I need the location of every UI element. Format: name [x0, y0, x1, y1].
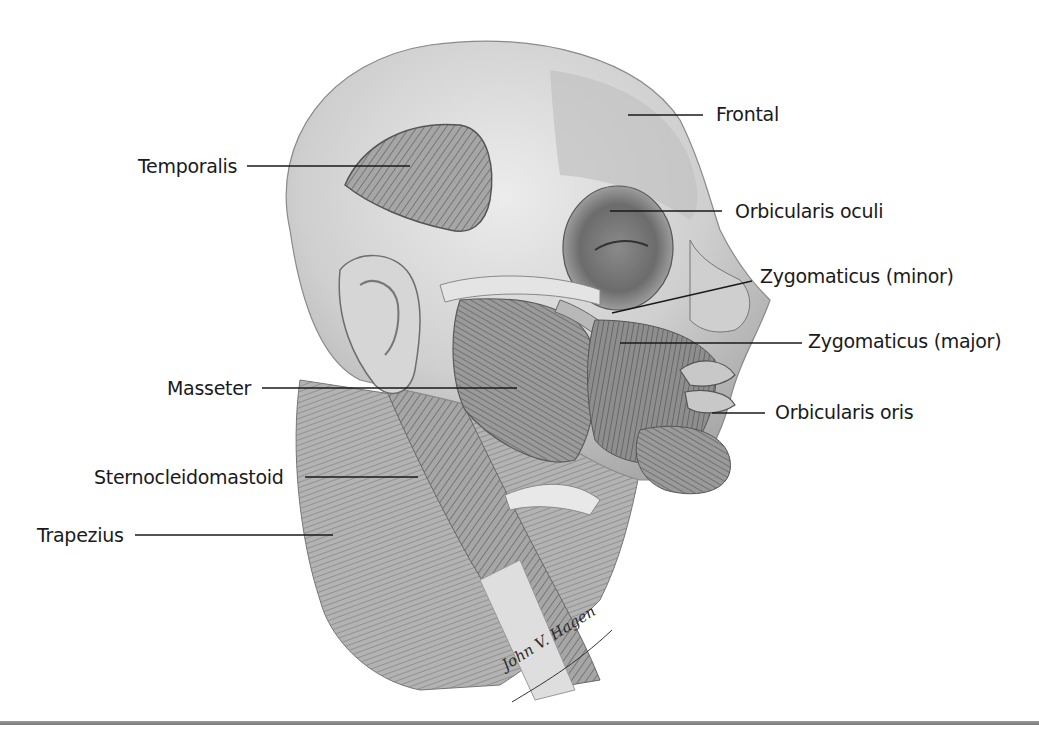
anatomy-figure: Frontal Temporalis Orbicularis oculi Zyg… [0, 0, 1039, 729]
bottom-rule [0, 721, 1039, 725]
label-sternocleidomastoid: Sternocleidomastoid [94, 468, 284, 487]
label-zygomaticus-minor: Zygomaticus (minor) [760, 267, 954, 286]
label-orbicularis-oculi: Orbicularis oculi [735, 202, 883, 221]
label-temporalis: Temporalis [138, 157, 237, 176]
label-masseter: Masseter [167, 379, 251, 398]
label-trapezius: Trapezius [37, 526, 124, 545]
label-orbicularis-oris: Orbicularis oris [775, 403, 913, 422]
head-muscle-illustration [0, 0, 1039, 729]
label-zygomaticus-major: Zygomaticus (major) [808, 332, 1001, 351]
label-frontal: Frontal [716, 105, 779, 124]
